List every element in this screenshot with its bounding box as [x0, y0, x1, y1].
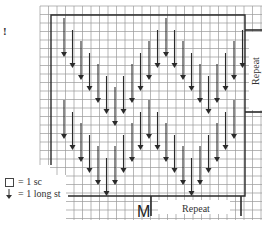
legend-item-long-st: = 1 long st [4, 188, 61, 200]
long-stitch-arrow [138, 112, 144, 150]
m-label: M [137, 203, 150, 220]
long-stitch-arrow [214, 123, 220, 162]
long-stitch-arrow [189, 53, 195, 91]
square-icon [4, 178, 14, 187]
long-stitch-arrows [61, 18, 246, 196]
legend-long-st-text: = 1 long st [18, 188, 61, 200]
long-stitch-arrow [163, 123, 169, 162]
chart-grid [40, 6, 262, 220]
long-stitch-arrow [223, 112, 229, 150]
long-stitch-arrow [104, 158, 110, 196]
down-arrow-icon [4, 189, 14, 200]
long-stitch-arrow [129, 123, 135, 162]
chart-outline [51, 15, 245, 196]
long-stitch-arrow [155, 112, 161, 150]
long-stitch-arrow [70, 30, 76, 68]
long-stitch-arrow [129, 64, 135, 103]
long-stitch-arrow [214, 64, 220, 103]
long-stitch-arrow [95, 64, 101, 103]
repeat-marker-bottom: RepeatM [137, 196, 241, 220]
long-stitch-arrow [138, 53, 144, 91]
long-stitch-arrow [112, 87, 118, 126]
long-stitch-arrow [172, 30, 178, 68]
long-stitch-arrow [61, 18, 67, 57]
long-stitch-arrow [87, 53, 93, 91]
legend: = 1 sc = 1 long st [4, 176, 61, 200]
repeat-bottom-label: Repeat [182, 203, 210, 214]
long-stitch-arrow [78, 123, 84, 162]
repeat-right-label: Repeat [250, 57, 261, 85]
long-stitch-arrow [155, 30, 161, 68]
long-stitch-arrow [95, 146, 101, 185]
long-stitch-arrow [180, 146, 186, 185]
long-stitch-arrow [197, 64, 203, 103]
long-stitch-arrow [197, 146, 203, 185]
long-stitch-arrow [223, 53, 229, 91]
long-stitch-arrow [163, 18, 169, 57]
long-stitch-arrow [189, 158, 195, 196]
legend-item-sc: = 1 sc [4, 176, 61, 188]
long-stitch-arrow [70, 112, 76, 150]
legend-sc-text: = 1 sc [18, 176, 42, 188]
marker-glyph: ! [3, 25, 7, 37]
long-stitch-arrow [112, 146, 118, 185]
